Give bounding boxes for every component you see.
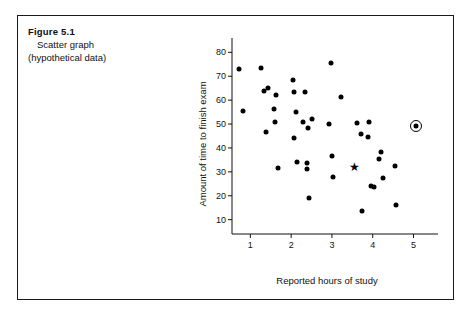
data-point (304, 167, 309, 172)
data-point (241, 108, 246, 113)
caption-line-1: Scatter graph (28, 38, 178, 51)
y-tick-label: 30 (210, 167, 226, 177)
y-tick-label: 70 (210, 71, 226, 81)
data-point (291, 77, 296, 82)
data-point (393, 163, 398, 168)
data-point (294, 160, 299, 165)
x-tick-label: 3 (325, 240, 339, 250)
data-point (366, 119, 371, 124)
x-tick-label: 4 (366, 240, 380, 250)
data-point (275, 166, 280, 171)
y-axis-title: Amount of time to finish exam (195, 40, 209, 248)
y-axis-title-text: Amount of time to finish exam (197, 81, 208, 206)
data-point (272, 119, 277, 124)
data-point (372, 185, 377, 190)
figure-page: Figure 5.1 Scatter graph (hypothetical d… (0, 0, 471, 323)
axis-lines (216, 38, 438, 250)
y-tick-label: 20 (210, 191, 226, 201)
data-point (378, 149, 383, 154)
data-point (338, 94, 343, 99)
data-point (380, 175, 385, 180)
data-point (309, 117, 314, 122)
data-point (302, 89, 307, 94)
data-point (355, 120, 360, 125)
data-point-star: ★ (349, 161, 360, 173)
data-point (291, 136, 296, 141)
data-point (263, 130, 268, 135)
data-point (300, 119, 305, 124)
data-point (294, 110, 299, 115)
data-point (328, 61, 333, 66)
y-tick-label: 50 (210, 119, 226, 129)
data-point (360, 209, 365, 214)
data-point (273, 93, 278, 98)
data-point (376, 156, 381, 161)
scatter-plot: 1020304050607080 12345 ★ (216, 38, 438, 250)
y-tick-label: 60 (210, 95, 226, 105)
caption-line-2: (hypothetical data) (28, 51, 178, 64)
data-point (237, 67, 242, 72)
y-tick-label: 80 (210, 47, 226, 57)
y-tick-label: 40 (210, 143, 226, 153)
y-tick-label: 10 (210, 215, 226, 225)
data-point (307, 196, 312, 201)
data-point (327, 122, 332, 127)
x-axis-title: Reported hours of study (216, 275, 438, 286)
data-point (259, 65, 264, 70)
data-point (292, 89, 297, 94)
data-point (394, 203, 399, 208)
x-tick-label: 2 (284, 240, 298, 250)
data-point (271, 106, 276, 111)
data-point (329, 154, 334, 159)
data-point (358, 131, 363, 136)
x-tick-label: 1 (243, 240, 257, 250)
data-point (305, 161, 310, 166)
data-point (330, 174, 335, 179)
data-point-highlighted (410, 120, 422, 132)
figure-number: Figure 5.1 (28, 25, 178, 38)
data-point (265, 86, 270, 91)
data-point (365, 135, 370, 140)
x-tick-label: 5 (407, 240, 421, 250)
figure-caption: Figure 5.1 Scatter graph (hypothetical d… (28, 25, 178, 64)
data-point (306, 125, 311, 130)
